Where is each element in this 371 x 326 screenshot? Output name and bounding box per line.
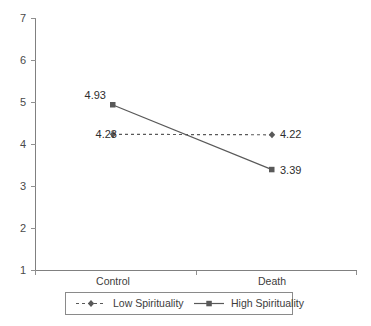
chart-canvas: 7 6 5 4 3 2 1 Control Death 4.93 4.23 4.… <box>0 0 371 326</box>
legend-label-high-spirituality: High Spirituality <box>231 297 305 309</box>
interaction-plot: 7 6 5 4 3 2 1 Control Death 4.93 4.23 4.… <box>0 0 371 326</box>
data-label-low-death: 4.22 <box>280 128 301 140</box>
y-tick-label-7: 7 <box>20 12 26 24</box>
y-tick-label-6: 6 <box>20 54 26 66</box>
y-tick-label-3: 3 <box>20 180 26 192</box>
y-tick-label-2: 2 <box>20 222 26 234</box>
legend-label-low-spirituality: Low Spirituality <box>113 297 184 309</box>
x-category-label-control: Control <box>96 275 130 287</box>
x-category-label-death: Death <box>258 275 286 287</box>
series-line-low-spirituality <box>113 134 272 135</box>
y-tick-label-1: 1 <box>20 264 26 276</box>
data-point-high-control <box>110 102 116 108</box>
data-label-low-control: 4.23 <box>96 128 117 140</box>
data-label-high-control: 4.93 <box>85 89 106 101</box>
data-point-high-death <box>269 167 275 173</box>
y-tick-label-5: 5 <box>20 96 26 108</box>
legend-item-low-spirituality[interactable]: Low Spirituality <box>76 297 184 309</box>
legend-square-marker-icon <box>206 301 212 307</box>
legend-item-high-spirituality[interactable]: High Spirituality <box>194 297 305 309</box>
series-line-high-spirituality <box>113 105 272 170</box>
legend-diamond-marker-icon <box>88 300 94 307</box>
data-label-high-death: 3.39 <box>280 164 301 176</box>
y-tick-label-4: 4 <box>20 138 26 150</box>
data-point-low-death <box>269 131 275 138</box>
